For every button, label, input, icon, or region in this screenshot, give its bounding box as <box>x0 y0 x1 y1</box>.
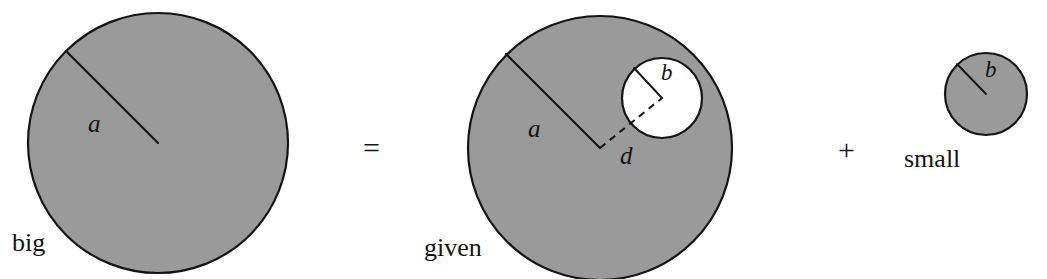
small-disk-group: b small <box>904 53 1027 173</box>
equals-operator: = <box>363 131 380 164</box>
given-distance-label: d <box>620 142 633 169</box>
big-radius-label: a <box>88 110 101 137</box>
small-radius-label: b <box>985 57 997 82</box>
big-disk-group: a big <box>12 13 288 273</box>
circle-decomposition-figure: a big = a b d given + b small <box>0 0 1047 279</box>
big-name-label: big <box>12 228 45 257</box>
given-radius-label: a <box>528 115 541 142</box>
given-hole-radius-label: b <box>661 60 673 85</box>
given-name-label: given <box>424 233 482 262</box>
small-name-label: small <box>904 144 960 173</box>
plus-operator: + <box>838 133 855 166</box>
given-disk-group: a b d given <box>424 16 732 279</box>
